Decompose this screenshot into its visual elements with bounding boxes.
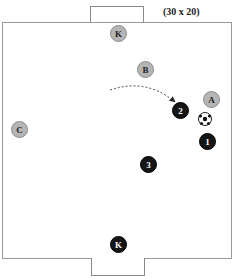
player-b: B [137,61,154,78]
player-c: C [11,121,28,138]
goalkeeper-bottom: K [110,236,127,253]
goalkeeper-top: K [110,25,127,42]
defender-1: 1 [199,133,216,150]
soccer-ball-icon [199,113,212,126]
defender-2: 2 [172,102,189,119]
player-a: A [203,91,220,108]
defender-3: 3 [140,156,157,173]
